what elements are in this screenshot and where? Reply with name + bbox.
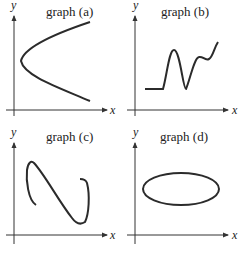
curve-oscillating <box>145 42 218 89</box>
graph-title: graph (a) <box>46 4 93 19</box>
y-axis-label: y <box>10 125 17 139</box>
panel-graph-a: y x graph (a) <box>6 0 116 117</box>
curve-ellipse <box>143 173 219 205</box>
y-axis-label: y <box>132 125 139 139</box>
y-axis-label: y <box>10 0 17 12</box>
graph-title: graph (c) <box>46 129 93 144</box>
graph-title: graph (d) <box>160 129 208 144</box>
curve-parabola <box>21 22 90 101</box>
graph-title: graph (b) <box>161 4 209 19</box>
y-axis-label: y <box>132 0 139 12</box>
panel-graph-d: y x graph (d) <box>127 125 238 244</box>
x-axis-label: x <box>109 103 116 117</box>
x-axis-label: x <box>231 228 238 242</box>
panel-graph-c: y x graph (c) <box>6 125 116 244</box>
panel-graph-b: y x graph (b) <box>127 0 238 117</box>
curve-s-shape <box>27 162 89 224</box>
x-axis-label: x <box>109 228 116 242</box>
x-axis-label: x <box>231 103 238 117</box>
graphs-figure: y x graph (a) y x graph (b) y x graph (c… <box>0 0 242 253</box>
